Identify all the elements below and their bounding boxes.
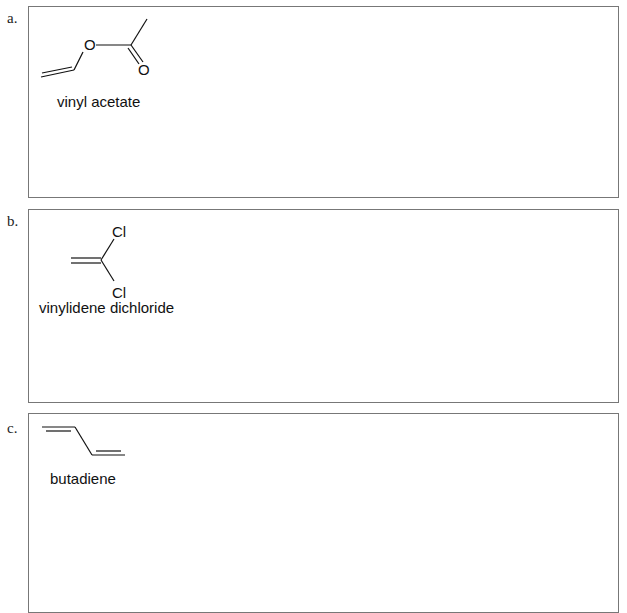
oxygen-atom: O — [84, 36, 96, 53]
problem-label-c: c. — [7, 420, 17, 437]
oxygen-atom: O — [138, 61, 150, 78]
vinyl-acetate-structure-icon: O O — [29, 7, 229, 97]
compound-name-b: vinylidene dichloride — [39, 299, 174, 316]
problem-label-a: a. — [7, 10, 17, 27]
vinylidene-dichloride-structure-icon: Cl Cl — [29, 210, 229, 300]
answer-box-a[interactable]: O O vinyl acetate — [28, 6, 619, 198]
butadiene-structure-icon — [29, 414, 229, 474]
compound-name-a: vinyl acetate — [57, 93, 140, 110]
compound-name-c: butadiene — [50, 470, 116, 487]
chlorine-atom: Cl — [112, 223, 126, 240]
problem-label-b: b. — [7, 213, 18, 230]
answer-box-b[interactable]: Cl Cl vinylidene dichloride — [28, 209, 619, 403]
answer-box-c[interactable]: butadiene — [28, 413, 619, 613]
